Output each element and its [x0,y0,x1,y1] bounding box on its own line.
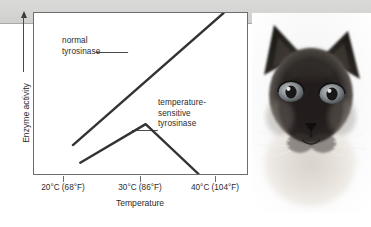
annotation-normal-line2: tyrosinase [62,47,100,58]
annotation-ts-line1: temperature- [158,98,206,109]
y-axis-title: Enzyme activity [21,73,31,153]
x-axis-title: Temperature [116,198,164,208]
series-line-temperature-sensitive-tyrosinase [80,124,198,174]
enzyme-activity-chart: Enzyme activity normal tyrosinase tem [0,0,252,227]
y-axis: Enzyme activity [14,14,34,174]
x-axis-tick-30c [140,176,141,182]
annotation-normal-line1: normal [62,36,100,47]
x-axis-label-20c: 20°C (68°F) [41,183,84,192]
x-axis-tick-40c [215,176,216,182]
x-axis-tick-20c [63,176,64,182]
annotation-ts-line2: sensitive [158,109,206,120]
x-axis-label-40c: 40°C (104°F) [191,183,239,192]
annotation-temperature-sensitive-tyrosinase: temperature- sensitive tyrosinase [158,98,206,130]
cat-illustration [252,13,371,213]
plot-area: normal tyrosinase temperature- sensitive… [33,12,248,175]
x-axis-label-30c: 30°C (86°F) [118,183,161,192]
siamese-cat-photo [252,13,371,213]
annotation-ts-line3: tyrosinase [158,119,206,130]
figure-panel: Enzyme activity normal tyrosinase tem [0,0,371,227]
y-axis-line [23,16,24,72]
annotation-normal-tyrosinase: normal tyrosinase [62,36,100,57]
